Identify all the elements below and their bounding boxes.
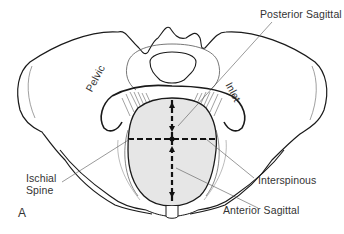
sacral-canal [150,52,196,83]
panel-letter: A [18,207,26,219]
label-posterior-sagittal: Posterior Sagittal [260,8,342,20]
leader-posterior-sagittal [178,22,272,126]
leader-ischial-spine [62,139,130,182]
pelvis-illustration [0,0,344,234]
sacrum-top [139,27,205,53]
label-interspinous: Interspinous [258,174,316,186]
label-ischial-spine: Ischial Spine [26,172,56,196]
pelvic-inlet-diagram: Posterior Sagittal Interspinous Anterior… [0,0,344,234]
label-ischial-line2: Spine [26,184,56,196]
pubic-symphysis [166,206,178,218]
label-anterior-sagittal: Anterior Sagittal [223,204,299,216]
label-ischial-line1: Ischial [26,172,56,184]
